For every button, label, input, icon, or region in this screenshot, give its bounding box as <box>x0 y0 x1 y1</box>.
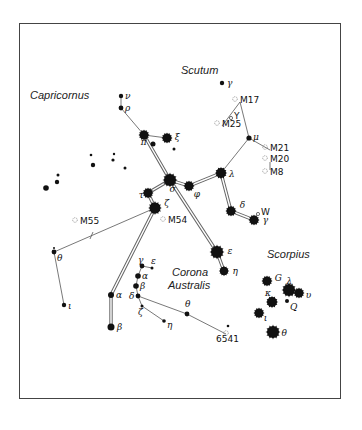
star-label: γ <box>227 78 233 88</box>
object-label: M54 <box>168 215 187 225</box>
faint-star <box>57 174 60 177</box>
deep-sky-object <box>73 218 78 223</box>
star <box>135 273 141 279</box>
variable-star-label: W <box>261 207 270 217</box>
deep-sky-object <box>233 97 238 102</box>
star-label: θ <box>185 299 191 309</box>
star-label: β <box>139 281 145 291</box>
faint-star <box>124 167 127 170</box>
star-label: σ <box>170 184 177 194</box>
variable-star <box>256 212 259 215</box>
star <box>261 275 272 286</box>
faint-star <box>91 163 95 167</box>
star <box>215 167 228 180</box>
star-label: ζ <box>164 198 170 208</box>
star-label: ι <box>264 313 268 323</box>
faint-star <box>43 185 49 191</box>
faint-star <box>55 180 59 184</box>
star-label: ε <box>228 246 233 256</box>
star-label: κ <box>264 288 271 298</box>
star-label: ξ <box>175 132 181 142</box>
constellation-name: Corona <box>172 266 208 278</box>
object-label: 6541 <box>216 334 239 344</box>
star-label: ζ <box>138 307 144 317</box>
star <box>246 135 251 140</box>
star <box>119 106 124 111</box>
object-label: M17 <box>240 95 259 105</box>
star <box>220 81 224 85</box>
star-label: β <box>116 322 122 332</box>
object-label: M20 <box>270 154 289 164</box>
deep-sky-object <box>215 121 220 126</box>
star <box>148 201 162 215</box>
star <box>248 214 259 225</box>
constellation-name: Capricornus <box>30 89 90 101</box>
star-label: α <box>116 290 122 300</box>
faint-star <box>113 153 115 155</box>
star <box>285 299 289 303</box>
star <box>62 303 66 307</box>
faint-star <box>173 148 176 151</box>
star <box>219 266 230 277</box>
star-label: η <box>233 266 239 276</box>
star-label: λ <box>286 276 293 286</box>
star <box>225 205 236 216</box>
star-label: δ <box>129 291 134 301</box>
star <box>162 319 166 323</box>
star-label: ν <box>125 91 131 101</box>
faint-star <box>90 154 93 157</box>
constellation-name: Scutum <box>181 64 218 76</box>
star-label: γ <box>138 255 144 265</box>
object-label: M55 <box>80 216 99 226</box>
star-label: G <box>275 273 282 283</box>
object-label: M8 <box>270 167 284 177</box>
star-label: λ <box>228 169 235 179</box>
star <box>108 324 115 331</box>
star <box>185 312 190 317</box>
star-label: η <box>167 320 173 330</box>
star <box>136 294 141 299</box>
star <box>151 267 154 270</box>
star-label: θ <box>57 253 63 263</box>
constellation-name: Australis <box>167 279 211 291</box>
deep-sky-object <box>263 169 268 174</box>
star <box>161 132 172 143</box>
faint-star <box>111 158 114 161</box>
star <box>266 325 281 340</box>
star-label: θ <box>282 328 288 338</box>
faint-star <box>151 142 156 147</box>
star-label: ρ <box>124 103 131 113</box>
deep-sky-object <box>263 156 268 161</box>
star-label: ι <box>68 301 72 311</box>
star-label: δ <box>240 200 245 210</box>
star <box>108 292 114 298</box>
star-label: φ <box>194 189 201 199</box>
star-label: Q <box>290 302 298 312</box>
faint-star <box>53 247 55 249</box>
star <box>293 287 304 298</box>
variable-star-label: Y <box>233 111 240 121</box>
star <box>133 283 139 289</box>
star-label: υ <box>306 290 312 300</box>
deep-sky-object <box>161 217 166 222</box>
star <box>52 250 57 255</box>
star-label: ε <box>151 256 156 266</box>
star-label: μ <box>253 132 259 142</box>
star-label: π <box>140 137 148 147</box>
star-label: α <box>142 271 148 281</box>
star <box>119 94 123 98</box>
object-label: M21 <box>270 143 289 153</box>
faint-star <box>227 325 230 328</box>
star-chart: γνρπξμλσφτζδγεηθιγεαβαδζβηθGλυκQιθM17M25… <box>0 0 362 430</box>
constellation-name: Scorpius <box>267 248 310 260</box>
